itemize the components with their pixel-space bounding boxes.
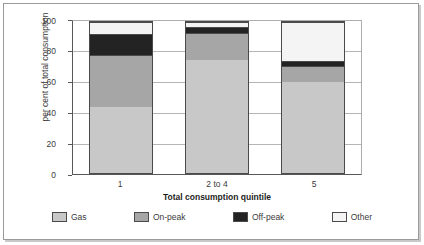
y-tick-mark — [68, 175, 72, 176]
bar-segment-gas — [186, 60, 248, 173]
legend-item-off-peak[interactable]: Off-peak — [233, 212, 284, 222]
y-tick-label: 60 — [16, 78, 56, 87]
stacked-bar[interactable] — [281, 21, 345, 174]
stacked-bar[interactable] — [89, 21, 153, 174]
y-tick-label: 100 — [16, 17, 56, 26]
chart-figure: 100 80 60 40 20 0 per cent of total cons… — [0, 0, 424, 245]
bar-segment-other — [282, 22, 344, 61]
bar-segment-on-peak — [186, 33, 248, 60]
legend-swatch-icon — [52, 212, 67, 222]
legend-swatch-icon — [233, 212, 248, 222]
bar-segment-on-peak — [90, 55, 152, 106]
chart-legend: Gas On-peak Off-peak Other — [52, 212, 372, 222]
y-tick-label: 0 — [16, 171, 56, 180]
bar-segment-gas — [90, 107, 152, 173]
y-axis-title: per cent of total consumption — [40, 2, 50, 132]
y-tick-label: 80 — [16, 47, 56, 56]
stacked-bar[interactable] — [185, 21, 249, 174]
bar-segment-gas — [282, 82, 344, 173]
x-tick-label: 1 — [72, 179, 168, 189]
bar-segment-other — [90, 22, 152, 34]
plot-area — [72, 20, 362, 175]
legend-item-other[interactable]: Other — [332, 212, 372, 222]
legend-item-on-peak[interactable]: On-peak — [134, 212, 186, 222]
legend-label: Gas — [71, 212, 87, 222]
bar-slot — [265, 21, 361, 174]
y-tick-label: 20 — [16, 140, 56, 149]
legend-swatch-icon — [332, 212, 347, 222]
x-tick-label: 5 — [266, 179, 362, 189]
bar-slot — [73, 21, 169, 174]
legend-swatch-icon — [134, 212, 149, 222]
legend-label: Other — [351, 212, 372, 222]
x-axis-title: Total consumption quintile — [72, 192, 362, 202]
legend-label: On-peak — [153, 212, 186, 222]
x-tick-label: 2 to 4 — [169, 179, 265, 189]
bar-segment-off-peak — [90, 34, 152, 55]
bar-group — [73, 21, 361, 174]
legend-item-gas[interactable]: Gas — [52, 212, 87, 222]
bar-slot — [169, 21, 265, 174]
bar-segment-on-peak — [282, 66, 344, 83]
y-tick-label: 40 — [16, 109, 56, 118]
legend-label: Off-peak — [252, 212, 284, 222]
